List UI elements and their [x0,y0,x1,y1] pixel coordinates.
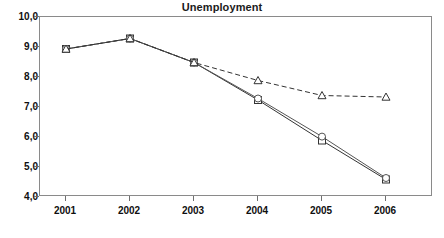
x-tick-mark-2006 [385,196,386,201]
plot-area [39,16,432,196]
series-triangles [62,35,390,101]
x-tick-label-2005: 2005 [298,205,344,216]
y-tick-label-8: 8,0 [4,72,38,82]
x-tick-label-2004: 2004 [234,205,280,216]
y-tick-label-9: 9,0 [4,42,38,52]
series-circles-line [66,39,386,179]
y-tick-label-10: 10,0 [4,12,38,22]
x-tick-mark-2002 [129,196,130,201]
y-tick-label-4: 4,0 [4,192,38,202]
x-tick-label-2001: 2001 [42,205,88,216]
series-canvas [40,17,431,195]
x-tick-mark-2004 [257,196,258,201]
series-circles [63,35,390,182]
x-tick-label-2003: 2003 [170,205,216,216]
y-tick-mark-4 [34,196,39,197]
x-tick-label-2006: 2006 [362,205,408,216]
x-tick-mark-2003 [193,196,194,201]
x-tick-label-2002: 2002 [106,205,152,216]
chart-screenshot: Unemployment 10,0 9,0 8,0 7,0 6,0 5,0 4,… [0,0,444,238]
series-squares [63,35,390,183]
chart-title: Unemployment [0,1,444,14]
x-tick-mark-2001 [65,196,66,201]
series-circles-marker [255,95,262,102]
series-squares-line [66,39,386,180]
y-tick-label-6: 6,0 [4,132,38,142]
x-tick-mark-2005 [321,196,322,201]
y-tick-label-5: 5,0 [4,162,38,172]
series-circles-marker [383,175,390,182]
series-triangles-line [66,39,386,98]
series-circles-marker [319,133,326,140]
series-triangles-marker [382,93,390,100]
y-tick-label-7: 7,0 [4,102,38,112]
